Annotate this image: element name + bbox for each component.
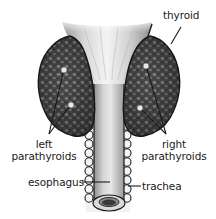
- thyroid-label: thyroid: [163, 9, 199, 21]
- right-parathyroids-label: right parathyroids: [138, 138, 210, 162]
- left-parathyroid-upper: [61, 67, 67, 73]
- anatomy-diagram: thyroid left parathyroids right parathyr…: [0, 0, 216, 219]
- left-parathyroids-label-line1: left: [8, 138, 80, 150]
- right-parathyroid-upper: [143, 63, 149, 69]
- trachea-label: trachea: [142, 180, 182, 192]
- left-parathyroids-label-line2: parathyroids: [8, 150, 80, 162]
- left-parathyroids-label: left parathyroids: [8, 138, 80, 162]
- thyroid-leader: [171, 27, 181, 44]
- right-parathyroids-label-line2: parathyroids: [138, 150, 210, 162]
- esophagus-label: esophagus: [28, 176, 84, 188]
- right-parathyroids-label-line1: right: [138, 138, 210, 150]
- esophagus: [93, 84, 125, 211]
